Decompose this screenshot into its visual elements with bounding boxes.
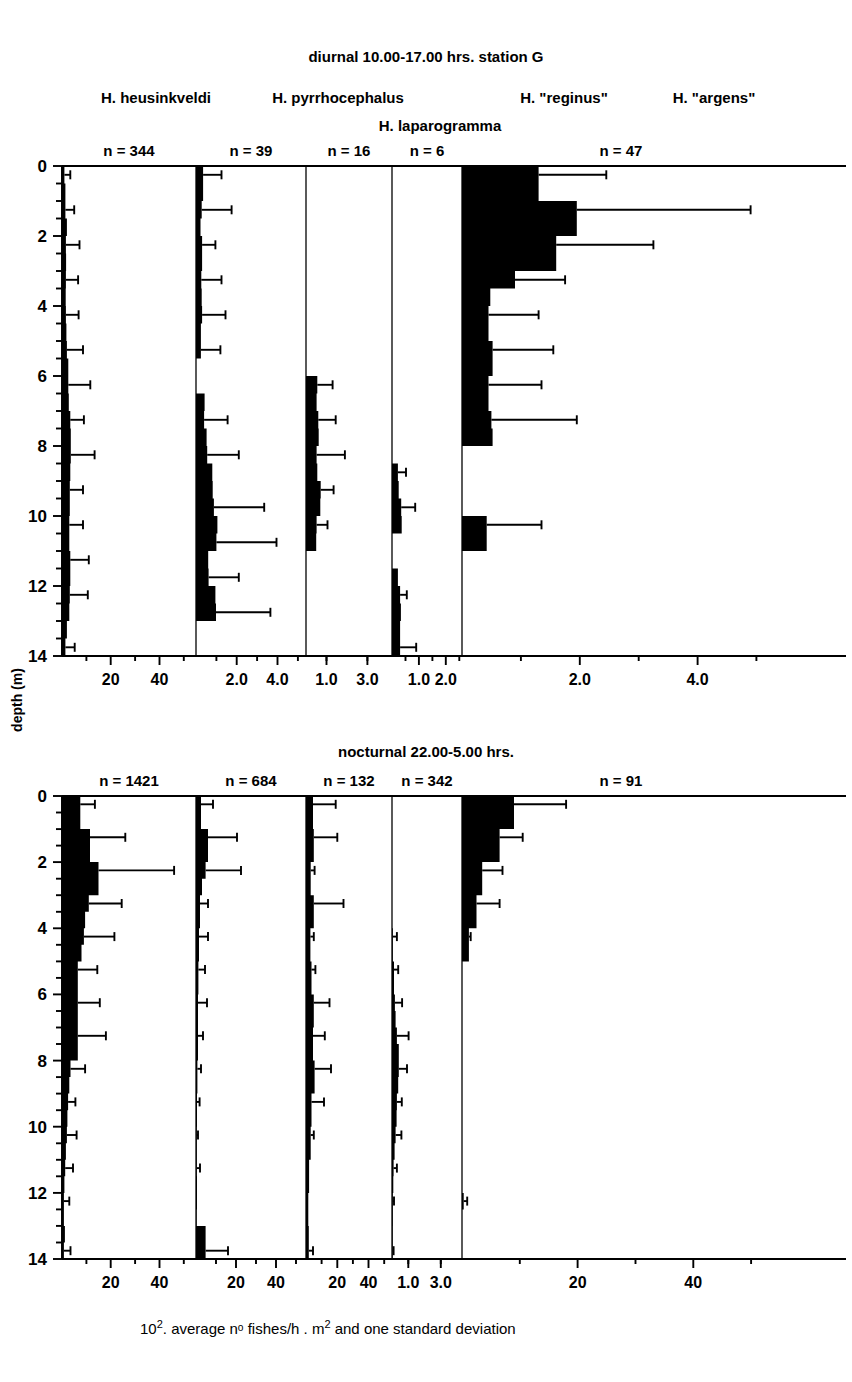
xtick-label-nocturnal-4-1: 40 [684, 1274, 702, 1291]
bars-diurnal-3 [392, 166, 402, 656]
n-label-nocturnal-0: n = 1421 [99, 772, 159, 789]
ytick-label-nocturnal-4: 4 [38, 919, 48, 938]
ytick-label-diurnal-12: 12 [28, 577, 47, 596]
xtick-label-diurnal-2-1: 3.0 [356, 671, 378, 688]
xtick-label-nocturnal-2-0: 20 [328, 1274, 346, 1291]
bars-diurnal-1 [196, 166, 217, 656]
n-label-nocturnal-2: n = 132 [323, 772, 374, 789]
xtick-label-diurnal-1-0: 2.0 [226, 671, 248, 688]
xtick-label-nocturnal-0-0: 20 [102, 1274, 120, 1291]
ytick-label-diurnal-10: 10 [28, 507, 47, 526]
ytick-label-diurnal-6: 6 [38, 367, 47, 386]
bars-nocturnal-1 [196, 796, 208, 1259]
n-label-diurnal-2: n = 16 [328, 142, 371, 159]
period-title-diurnal: diurnal 10.00-17.00 hrs. station G [308, 48, 543, 65]
xtick-label-nocturnal-1-1: 40 [267, 1274, 285, 1291]
species-label-argens: H. "argens" [673, 89, 756, 106]
n-label-nocturnal-4: n = 91 [600, 772, 643, 789]
ytick-label-nocturnal-12: 12 [28, 1184, 47, 1203]
xtick-label-nocturnal-2-1: 40 [360, 1274, 378, 1291]
n-label-nocturnal-1: n = 684 [225, 772, 277, 789]
period-title-nocturnal: nocturnal 22.00-5.00 hrs. [338, 743, 514, 760]
bars-nocturnal-0 [62, 796, 99, 1259]
figure-caption: 102. average nᵒ fishes/h . m2 and one st… [140, 1318, 516, 1337]
n-label-diurnal-1: n = 39 [230, 142, 273, 159]
ytick-label-diurnal-14: 14 [28, 647, 47, 666]
n-label-nocturnal-3: n = 342 [401, 772, 452, 789]
ytick-label-nocturnal-8: 8 [38, 1052, 47, 1071]
bars-diurnal-2 [306, 166, 321, 656]
species-label-reginus: H. "reginus" [520, 89, 608, 106]
ytick-label-nocturnal-10: 10 [28, 1118, 47, 1137]
xtick-label-diurnal-0-1: 40 [151, 671, 169, 688]
y-axis-title: depth (m) [9, 668, 25, 732]
ytick-label-nocturnal-0: 0 [38, 787, 47, 806]
xtick-label-diurnal-3-1: 2.0 [435, 671, 457, 688]
species-label-pyrrhocephalus: H. pyrrhocephalus [272, 89, 404, 106]
xtick-label-diurnal-4-1: 4.0 [686, 671, 708, 688]
bars-nocturnal-4 [462, 796, 514, 1259]
xtick-label-diurnal-3-0: 1.0 [408, 671, 430, 688]
xtick-label-nocturnal-4-0: 20 [569, 1274, 587, 1291]
ytick-label-diurnal-8: 8 [38, 437, 47, 456]
figure-root: diurnal 10.00-17.00 hrs. station Gn = 34… [0, 0, 852, 1382]
bars-nocturnal-2 [306, 796, 315, 1259]
xtick-label-nocturnal-1-0: 20 [227, 1274, 245, 1291]
ytick-label-diurnal-0: 0 [38, 157, 47, 176]
bars-nocturnal-3 [392, 796, 399, 1259]
xtick-label-diurnal-4-0: 2.0 [569, 671, 591, 688]
xtick-label-nocturnal-3-1: 3.0 [430, 1274, 452, 1291]
xtick-label-diurnal-0-0: 20 [102, 671, 120, 688]
depth-distribution-chart: diurnal 10.00-17.00 hrs. station Gn = 34… [0, 0, 852, 1382]
ytick-label-nocturnal-2: 2 [38, 853, 47, 872]
species-label-laparogramma: H. laparogramma [379, 117, 502, 134]
xtick-label-diurnal-1-1: 4.0 [266, 671, 288, 688]
xtick-label-nocturnal-0-1: 40 [151, 1274, 169, 1291]
bars-diurnal-0 [62, 166, 71, 656]
bars-diurnal-4 [462, 166, 577, 656]
ytick-label-diurnal-4: 4 [38, 297, 48, 316]
xtick-label-nocturnal-3-0: 1.0 [397, 1274, 419, 1291]
n-label-diurnal-4: n = 47 [600, 142, 643, 159]
n-label-diurnal-3: n = 6 [410, 142, 445, 159]
n-label-diurnal-0: n = 344 [103, 142, 155, 159]
xtick-label-diurnal-2-0: 1.0 [315, 671, 337, 688]
species-label-heusinkveldi: H. heusinkveldi [101, 89, 211, 106]
ytick-label-diurnal-2: 2 [38, 227, 47, 246]
ytick-label-nocturnal-6: 6 [38, 985, 47, 1004]
ytick-label-nocturnal-14: 14 [28, 1250, 47, 1269]
